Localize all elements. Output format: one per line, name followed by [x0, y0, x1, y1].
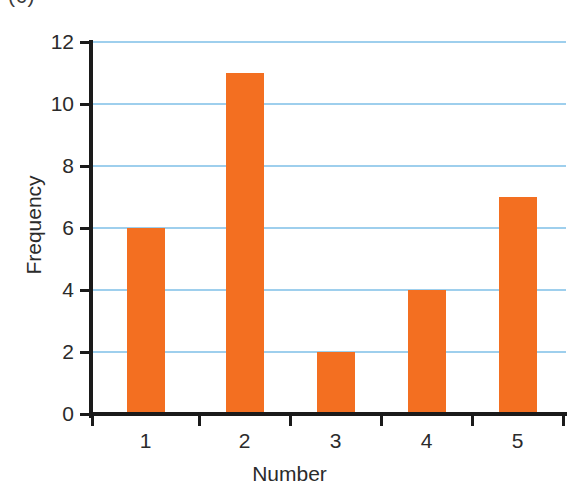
y-axis-tick-label: 4 — [38, 279, 74, 300]
gridline — [92, 165, 566, 167]
y-axis-tick — [80, 351, 91, 354]
y-axis-tick — [80, 41, 91, 44]
x-axis-tick — [289, 414, 292, 426]
x-axis-tick — [471, 414, 474, 426]
x-axis-tick — [380, 414, 383, 426]
x-axis-tick — [91, 414, 94, 426]
gridline — [92, 103, 566, 105]
x-axis-tick — [562, 414, 565, 426]
x-axis-tick-label: 5 — [488, 430, 548, 451]
x-axis-tick-label: 1 — [116, 430, 176, 451]
x-axis-tick-label: 3 — [306, 430, 366, 451]
x-axis-tick-label: 4 — [397, 430, 457, 451]
y-axis-tick-labels: 024681012 — [28, 0, 74, 504]
y-axis-tick-label: 8 — [38, 155, 74, 176]
gridline — [92, 41, 566, 43]
y-axis-tick-label: 2 — [38, 341, 74, 362]
y-axis-tick-label: 10 — [38, 93, 74, 114]
x-axis-tick-label: 2 — [215, 430, 275, 451]
bar — [408, 290, 446, 414]
y-axis-tick-label: 0 — [38, 403, 74, 424]
y-axis-tick — [80, 103, 91, 106]
y-axis-tick-label: 12 — [38, 31, 74, 52]
y-axis-tick — [80, 227, 91, 230]
bar — [317, 352, 355, 414]
x-axis-tick — [198, 414, 201, 426]
y-axis-tick — [80, 165, 91, 168]
x-axis-line — [89, 412, 567, 416]
x-axis-title: Number — [0, 462, 579, 486]
bar — [127, 228, 165, 414]
plot-area — [92, 42, 566, 414]
bar-chart-figure: (c) Frequency Number 024681012 12345 — [0, 0, 579, 504]
bar — [226, 73, 264, 414]
y-axis-tick — [80, 289, 91, 292]
y-axis-tick — [80, 413, 91, 416]
bar — [499, 197, 537, 414]
y-axis-tick-label: 6 — [38, 217, 74, 238]
